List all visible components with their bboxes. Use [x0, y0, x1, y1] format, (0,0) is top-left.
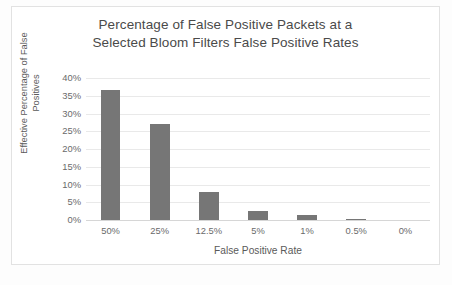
plot-area: 40%35%30%25%20%15%10%5%0% — [86, 78, 430, 220]
chart-title: Percentage of False Positive Packets at … — [12, 16, 439, 52]
x-axis-tick-label: 5% — [233, 225, 282, 236]
chart-title-line-2: Selected Bloom Filters False Positive Ra… — [12, 34, 439, 52]
x-axis-tick-label: 1% — [283, 225, 332, 236]
bar-slot — [86, 78, 135, 220]
bar-series — [86, 78, 430, 220]
bar[interactable] — [248, 211, 268, 220]
bar-slot — [184, 78, 233, 220]
bar[interactable] — [297, 215, 317, 220]
y-axis-tick-label: 10% — [41, 180, 81, 189]
bar[interactable] — [101, 90, 121, 220]
bar-slot — [332, 78, 381, 220]
x-axis-tick-label: 0% — [381, 225, 430, 236]
chart-title-line-1: Percentage of False Positive Packets at … — [12, 16, 439, 34]
bar-slot — [381, 78, 430, 220]
y-axis-title-line-1: Effective Percentage of False — [19, 13, 31, 173]
y-axis-tick-label: 35% — [41, 91, 81, 100]
y-axis-tick-label: 0% — [41, 215, 81, 224]
gridline-0% — [86, 220, 430, 221]
y-axis-tick-label: 40% — [41, 73, 81, 82]
bar[interactable] — [199, 192, 219, 220]
y-axis-tick-label: 5% — [41, 198, 81, 207]
x-axis-tick-label: 12.5% — [184, 225, 233, 236]
bar[interactable] — [346, 219, 366, 220]
bar-slot — [233, 78, 282, 220]
y-axis-tick-label: 20% — [41, 144, 81, 153]
x-axis-title: False Positive Rate — [86, 245, 430, 257]
x-axis-tick-label: 50% — [86, 225, 135, 236]
x-axis-tick-label: 0.5% — [332, 225, 381, 236]
y-axis-tick-label: 25% — [41, 127, 81, 136]
bar-slot — [135, 78, 184, 220]
y-axis-tick-label: 15% — [41, 162, 81, 171]
bar-slot — [283, 78, 332, 220]
bar[interactable] — [150, 124, 170, 220]
x-axis-tick-labels: 50%25%12.5%5%1%0.5%0% — [86, 225, 430, 236]
x-axis-tick-label: 25% — [135, 225, 184, 236]
chart-frame: Percentage of False Positive Packets at … — [11, 6, 440, 265]
y-axis-tick-label: 30% — [41, 109, 81, 118]
